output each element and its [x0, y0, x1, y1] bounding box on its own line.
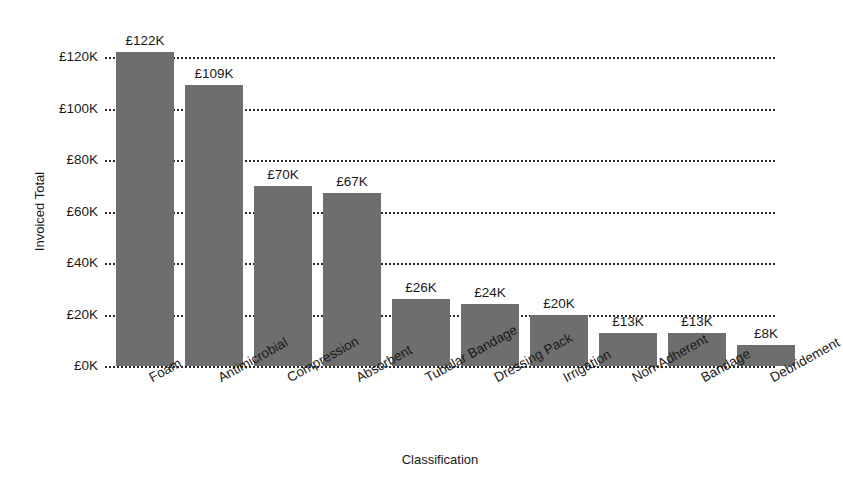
x-tick-label-slot: Non-Adherent — [599, 366, 657, 466]
bar-group[interactable]: £70K — [254, 57, 312, 366]
x-axis-title: Classification — [105, 452, 775, 467]
x-tick-label-slot: Bandage — [668, 366, 726, 466]
bar[interactable] — [116, 52, 174, 366]
y-axis-tick-label: £20K — [28, 308, 98, 322]
y-axis-tick-label: £80K — [28, 153, 98, 167]
bar-value-label: £8K — [723, 326, 809, 341]
x-tick-label-slot: Tubular Bandage — [392, 366, 450, 466]
bar-group[interactable]: £122K — [116, 57, 174, 366]
plot-area: £122K£109K£70K£67K£26K£24K£20K£13K£13K£8… — [105, 57, 775, 366]
bar-value-label: £67K — [309, 174, 395, 189]
x-axis-tick-labels: FoamAntimicrobialCompressionAbsorbentTub… — [105, 366, 775, 466]
y-axis-tick-label: £0K — [28, 359, 98, 373]
bar-group[interactable]: £20K — [530, 57, 588, 366]
bar-group[interactable]: £13K — [668, 57, 726, 366]
x-tick-label-slot: Foam — [116, 366, 174, 466]
bar-group[interactable]: £13K — [599, 57, 657, 366]
x-tick-label-slot: Absorbent — [323, 366, 381, 466]
y-axis-tick-label: £100K — [28, 102, 98, 116]
x-tick-label-slot: Antimicrobial — [185, 366, 243, 466]
y-axis-tick-label: £40K — [28, 256, 98, 270]
bar[interactable] — [185, 85, 243, 366]
bar-group[interactable]: £109K — [185, 57, 243, 366]
bar-group[interactable]: £24K — [461, 57, 519, 366]
y-axis-tick-label: £60K — [28, 205, 98, 219]
bar-group[interactable]: £67K — [323, 57, 381, 366]
bar-value-label: £109K — [171, 66, 257, 81]
bar-group[interactable]: £8K — [737, 57, 795, 366]
y-axis-tick-label: £120K — [28, 50, 98, 64]
bar-group[interactable]: £26K — [392, 57, 450, 366]
bar-value-label: £122K — [102, 33, 188, 48]
x-tick-label-slot: Debridement — [737, 366, 795, 466]
x-tick-label-slot: Dressing Pack — [461, 366, 519, 466]
bar-value-label: £20K — [516, 296, 602, 311]
x-tick-label-slot: Compression — [254, 366, 312, 466]
y-axis-tick-labels: £0K£20K£40K£60K£80K£100K£120K — [20, 57, 98, 366]
x-tick-label-slot: Irrigation — [530, 366, 588, 466]
